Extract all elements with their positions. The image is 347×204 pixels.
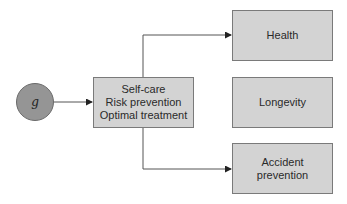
center-line-self-care: Self-care (100, 83, 187, 96)
source-node-label: g (31, 95, 39, 109)
center-node: Self-care Risk prevention Optimal treatm… (93, 77, 194, 128)
arrow-center-to-health (143, 35, 231, 77)
outcome-longevity: Longevity (232, 77, 333, 128)
outcome-accident-prevention: Accident prevention (232, 143, 333, 194)
outcome-health: Health (232, 10, 333, 61)
arrow-center-to-accident (143, 128, 231, 169)
source-node-g: g (16, 83, 54, 121)
outcome-accident-line-1: Accident (257, 156, 308, 169)
outcome-accident-line-2: prevention (257, 169, 308, 182)
center-line-optimal-treatment: Optimal treatment (100, 109, 187, 122)
outcome-longevity-label: Longevity (259, 96, 306, 109)
outcome-health-label: Health (267, 29, 299, 42)
center-line-risk-prevention: Risk prevention (100, 96, 187, 109)
